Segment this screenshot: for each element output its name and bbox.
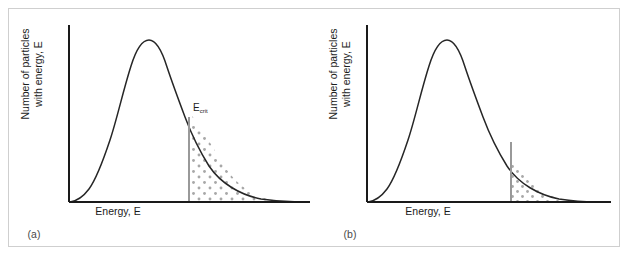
marker-subscript-a: crit — [200, 108, 208, 114]
marker-symbol-a: E — [193, 102, 200, 113]
y-axis-label-b: Number of particles with energy, E — [327, 0, 353, 159]
chart-panel-b: Ea Number of particles with energy, E En… — [315, 9, 621, 246]
panel-caption-a: (a) — [0, 228, 187, 240]
chart-panel-a: Ecrit Number of particles with energy, E… — [9, 9, 315, 246]
plot-area-a — [9, 9, 315, 223]
plot-area-b — [315, 9, 621, 223]
figure-frame: Ecrit Number of particles with energy, E… — [8, 8, 620, 247]
x-axis-label-b: Energy, E — [275, 205, 581, 217]
panel-caption-b: (b) — [197, 228, 503, 240]
shaded-region-b — [505, 154, 600, 209]
marker-label-ecrit: Ecrit — [193, 102, 208, 113]
distribution-curve-b — [368, 40, 595, 202]
y-axis-label-a: Number of particles with energy, E — [19, 0, 45, 159]
distribution-curve-a — [70, 40, 299, 202]
x-axis-label-a: Energy, E — [0, 205, 271, 217]
